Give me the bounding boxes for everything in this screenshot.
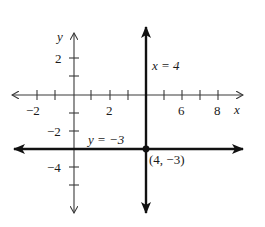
x-tick-label-6: 6 — [178, 103, 185, 118]
y-axis-label: y — [55, 29, 63, 44]
line-label-x-eq-4: x = 4 — [151, 58, 180, 73]
x-tick-label-neg2: −2 — [26, 103, 40, 118]
line-label-y-eq-neg3: y = −3 — [86, 132, 125, 147]
x-axis — [12, 90, 243, 100]
y-axis — [69, 33, 79, 213]
x-tick-label-2: 2 — [106, 103, 113, 118]
point-label: (4, −3) — [149, 152, 185, 167]
y-tick-label-2: 2 — [55, 51, 62, 66]
graph-figure: y x 2 −2 −4 −2 2 6 8 x = 4 y = −3 (4, −3… — [0, 0, 265, 227]
x-tick-label-8: 8 — [214, 103, 221, 118]
y-tick-label-neg2: −2 — [47, 124, 61, 139]
y-tick-label-neg4: −4 — [47, 160, 61, 175]
x-axis-label: x — [233, 102, 240, 117]
coordinate-plane: y x 2 −2 −4 −2 2 6 8 x = 4 y = −3 (4, −3… — [0, 0, 265, 227]
